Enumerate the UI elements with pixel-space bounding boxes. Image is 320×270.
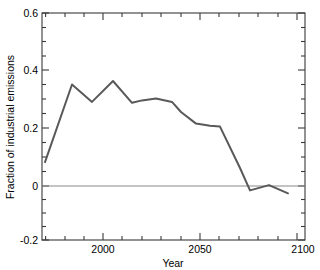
x-axis-minor-ticks xyxy=(46,13,278,240)
line-chart-svg: 0.6 0.4 0.2 0 -0.2 2000 2050 2100 Year F… xyxy=(0,0,320,270)
y-tick-label-0: 0 xyxy=(32,180,38,192)
x-tick-label-2000: 2000 xyxy=(91,243,115,255)
y-axis-minor-ticks xyxy=(42,28,305,227)
chart-figure: 0.6 0.4 0.2 0 -0.2 2000 2050 2100 Year F… xyxy=(0,0,320,270)
y-tick-label-0-4: 0.4 xyxy=(23,64,38,76)
y-tick-label-0-2: 0.2 xyxy=(23,122,38,134)
data-series-line xyxy=(45,81,288,193)
x-tick-label-2050: 2050 xyxy=(188,243,212,255)
y-axis-major-ticks xyxy=(42,13,305,240)
y-axis-title: Fraction of industrial emissions xyxy=(4,55,16,199)
y-tick-label-0-6: 0.6 xyxy=(23,7,38,19)
plot-frame xyxy=(42,13,305,240)
x-axis-title: Year xyxy=(162,257,184,269)
y-tick-label-neg-0-2: -0.2 xyxy=(20,234,38,246)
x-axis-major-ticks xyxy=(103,13,297,240)
x-tick-label-2100: 2100 xyxy=(291,243,315,255)
